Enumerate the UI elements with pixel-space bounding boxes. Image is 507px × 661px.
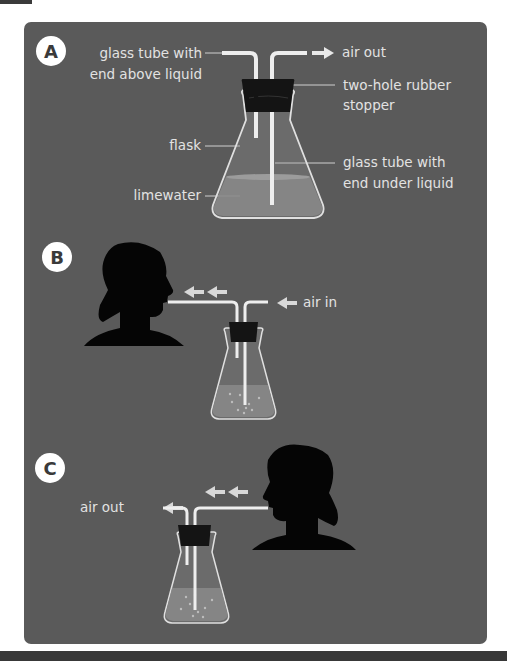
- badge-a-label: A: [44, 41, 58, 62]
- panel-c: C air out: [35, 445, 356, 623]
- limewater-liquid: [214, 177, 323, 216]
- rubber-stopper-c: [178, 525, 211, 546]
- limewater-experiment-diagram: A glass tube with end above liquid air o…: [0, 0, 507, 661]
- label-glass-tube-above-1: glass tube with: [99, 45, 202, 61]
- arrow-left-icon: [207, 286, 227, 298]
- rubber-stopper-b: [229, 322, 258, 342]
- label-glass-tube-above-2: end above liquid: [90, 66, 202, 82]
- label-flask: flask: [169, 137, 201, 153]
- panel-b: B air in: [42, 242, 337, 419]
- panel-a: A glass tube with end above liquid air o…: [36, 36, 454, 218]
- person-silhouette-c: [252, 445, 356, 550]
- label-glass-tube-under-2: end under liquid: [343, 175, 454, 191]
- arrow-left-icon: [184, 286, 204, 298]
- label-air-out-c: air out: [80, 499, 124, 515]
- label-limewater: limewater: [134, 187, 202, 203]
- label-stopper-2: stopper: [343, 97, 395, 113]
- label-air-out-a: air out: [342, 44, 386, 60]
- arrow-left-icon: [205, 486, 225, 498]
- label-stopper-1: two-hole rubber: [343, 77, 451, 93]
- label-glass-tube-under-1: glass tube with: [343, 154, 446, 170]
- rubber-stopper: [242, 79, 295, 112]
- arrow-left-icon: [228, 486, 248, 498]
- badge-c-label: C: [43, 458, 56, 479]
- arrow-left-icon: [277, 297, 297, 309]
- badge-b-label: B: [50, 247, 64, 268]
- label-air-in: air in: [303, 294, 337, 310]
- arrow-right-icon: [312, 47, 334, 59]
- person-silhouette-b: [84, 242, 184, 346]
